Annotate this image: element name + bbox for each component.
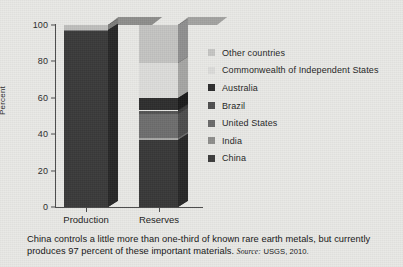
segment-reserves-australia	[139, 98, 178, 111]
caption-source-value: USGS, 2010.	[263, 247, 308, 256]
y-tick-label-40: 40	[22, 129, 48, 139]
plot-area: Percent 100 80 60 40 20 0	[0, 0, 205, 225]
y-axis-title: Percent	[0, 86, 7, 115]
legend-swatch-icon-other-countries	[208, 49, 215, 56]
legend-swatch-icon-brazil	[208, 102, 215, 109]
bar-reserves	[139, 25, 178, 207]
legend-item-china[interactable]: China	[208, 150, 403, 168]
caption-text: China controls a little more than one-th…	[27, 234, 370, 256]
y-tick-label-0: 0	[22, 202, 48, 212]
legend-swatch-icon-commonwealth-of-independent-states	[208, 67, 215, 74]
segment-reserves-commonwealth-of-independent-states	[139, 63, 178, 98]
legend-label-commonwealth-of-independent-states: Commonwealth of Independent States	[222, 65, 379, 75]
legend-swatch-icon-india	[208, 137, 215, 144]
x-tick-mark-production	[86, 207, 87, 212]
segment-reserves-other-countries	[139, 25, 178, 63]
y-tick-label-20: 20	[22, 166, 48, 176]
legend-item-india[interactable]: India	[208, 132, 403, 150]
y-tick-label-100: 100	[22, 20, 48, 30]
rare-earth-metals-stacked-bar-figure: Percent 100 80 60 40 20 0	[0, 0, 403, 267]
legend-item-commonwealth-of-independent-states[interactable]: Commonwealth of Independent States	[208, 62, 403, 80]
y-tick-label-80: 80	[22, 56, 48, 66]
segment-reserves-united-states	[139, 114, 178, 138]
x-tick-label-production: Production	[63, 214, 108, 225]
bar-reserves-side-face	[178, 19, 188, 207]
legend-swatch-icon-china	[208, 155, 215, 162]
caption-source-label: Source:	[237, 247, 261, 256]
legend-label-brazil: Brazil	[222, 101, 245, 111]
x-tick-mark-reserves	[159, 207, 160, 212]
figure-caption: China controls a little more than one-th…	[27, 233, 393, 259]
legend-swatch-icon-united-states	[208, 120, 215, 127]
x-axis-line	[55, 207, 203, 208]
y-tick-label-60: 60	[22, 93, 48, 103]
segment-production-china	[64, 30, 108, 207]
legend-label-australia: Australia	[222, 83, 258, 93]
legend-swatch-icon-australia	[208, 84, 215, 91]
legend-item-united-states[interactable]: United States	[208, 114, 403, 132]
bar-production-side-face	[108, 19, 118, 207]
legend-label-india: India	[222, 136, 242, 146]
x-tick-label-reserves: Reserves	[139, 214, 179, 225]
legend-item-australia[interactable]: Australia	[208, 79, 403, 97]
legend-label-china: China	[222, 153, 246, 163]
legend-label-united-states: United States	[222, 118, 277, 128]
legend-item-other-countries[interactable]: Other countries	[208, 44, 403, 62]
legend: Other countries Commonwealth of Independ…	[208, 44, 403, 167]
segment-reserves-china	[139, 140, 178, 207]
y-axis-line	[55, 24, 56, 208]
legend-item-brazil[interactable]: Brazil	[208, 97, 403, 115]
bar-production	[64, 25, 108, 207]
legend-label-other-countries: Other countries	[222, 48, 285, 58]
